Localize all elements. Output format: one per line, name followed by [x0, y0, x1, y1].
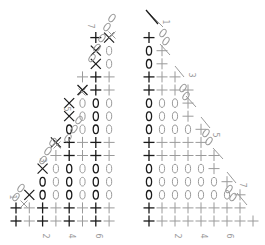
single-crochet-icon: [157, 150, 168, 161]
single-crochet-icon: [90, 202, 101, 213]
chain-stitch-icon: [93, 112, 98, 121]
single-crochet-icon: [90, 137, 101, 148]
single-crochet-icon: [77, 71, 88, 82]
turning-chain-icon: [159, 28, 168, 38]
row-or-column-label: 3: [38, 157, 47, 162]
turning-chain-icon: [44, 146, 53, 156]
row-or-column-label: 5: [62, 106, 71, 111]
single-crochet-icon: [104, 85, 115, 96]
single-crochet-icon: [209, 150, 220, 161]
single-crochet-icon: [170, 137, 181, 148]
chain-stitch-icon: [146, 164, 151, 173]
single-crochet-icon: [77, 202, 88, 213]
chain-stitch-icon: [93, 99, 98, 108]
chain-stitch-icon: [224, 191, 229, 200]
single-crochet-icon: [77, 150, 88, 161]
turning-chain-icon: [17, 183, 26, 193]
left-triangle-chart: 2461357: [8, 13, 116, 238]
row-or-column-label: 3: [187, 72, 196, 77]
single-crochet-icon: [196, 150, 207, 161]
single-crochet-icon: [77, 137, 88, 148]
chain-stitch-icon: [159, 112, 164, 121]
chain-stitch-icon: [53, 191, 58, 200]
chain-stitch-icon: [185, 177, 190, 186]
single-crochet-icon: [209, 202, 220, 213]
chain-stitch-icon: [107, 99, 112, 108]
chain-stitch-icon: [172, 125, 177, 134]
chain-stitch-icon: [146, 125, 151, 134]
turning-chain-icon: [108, 13, 117, 23]
single-crochet-icon: [104, 71, 115, 82]
single-crochet-icon: [157, 71, 168, 82]
chain-stitch-icon: [198, 164, 203, 173]
decrease-stitch-icon: [91, 59, 101, 69]
chain-stitch-icon: [53, 177, 58, 186]
single-crochet-icon: [37, 216, 48, 227]
chain-stitch-icon: [107, 125, 112, 134]
chain-stitch-icon: [159, 164, 164, 173]
single-crochet-icon: [104, 216, 115, 227]
decrease-stitch-icon: [38, 164, 48, 174]
chain-stitch-icon: [159, 191, 164, 200]
single-crochet-icon: [222, 202, 233, 213]
chain-stitch-icon: [80, 191, 85, 200]
chain-stitch-icon: [185, 191, 190, 200]
single-crochet-icon: [144, 71, 155, 82]
chain-stitch-icon: [80, 125, 85, 134]
single-crochet-icon: [24, 202, 35, 213]
single-crochet-icon: [157, 202, 168, 213]
single-crochet-icon: [196, 216, 207, 227]
chain-stitch-icon: [107, 46, 112, 55]
chain-stitch-icon: [93, 164, 98, 173]
turning-chain-icon: [75, 115, 84, 125]
chain-stitch-icon: [80, 164, 85, 173]
single-crochet-icon: [50, 202, 61, 213]
single-crochet-icon: [222, 216, 233, 227]
single-crochet-icon: [144, 216, 155, 227]
single-crochet-icon: [144, 32, 155, 43]
single-crochet-icon: [196, 202, 207, 213]
single-crochet-icon: [157, 137, 168, 148]
single-crochet-icon: [77, 216, 88, 227]
chain-stitch-icon: [40, 191, 45, 200]
chain-stitch-icon: [146, 177, 151, 186]
turning-chain-icon: [64, 133, 73, 143]
single-crochet-icon: [170, 216, 181, 227]
single-crochet-icon: [104, 202, 115, 213]
single-crochet-icon: [183, 202, 194, 213]
chain-stitch-icon: [146, 46, 151, 55]
row-or-column-label: 7: [238, 182, 247, 187]
single-crochet-icon: [209, 163, 220, 174]
single-crochet-icon: [183, 137, 194, 148]
single-crochet-icon: [170, 150, 181, 161]
single-crochet-icon: [157, 58, 168, 69]
single-crochet-icon: [144, 85, 155, 96]
chain-stitch-icon: [67, 164, 72, 173]
chain-stitch-icon: [67, 177, 72, 186]
turning-chain-icon: [88, 53, 97, 63]
single-crochet-icon: [64, 202, 75, 213]
chain-stitch-icon: [185, 125, 190, 134]
decrease-stitch-icon: [78, 85, 88, 95]
row-or-column-label: 7: [86, 23, 95, 28]
single-crochet-icon: [90, 85, 101, 96]
row-or-column-label: 6: [94, 233, 103, 238]
turning-chain-icon: [179, 83, 188, 93]
single-crochet-icon: [157, 85, 168, 96]
chain-stitch-icon: [107, 177, 112, 186]
chain-stitch-icon: [107, 164, 112, 173]
turning-chain-icon: [225, 184, 234, 194]
chain-stitch-icon: [53, 164, 58, 173]
row-or-column-label: 6: [225, 233, 234, 238]
single-crochet-icon: [37, 202, 48, 213]
chain-stitch-icon: [198, 191, 203, 200]
chain-stitch-icon: [198, 177, 203, 186]
row-or-column-label: 4: [199, 233, 208, 238]
chain-stitch-icon: [107, 112, 112, 121]
chain-stitch-icon: [172, 191, 177, 200]
single-crochet-icon: [183, 216, 194, 227]
chain-stitch-icon: [185, 164, 190, 173]
slip-stitch-line: [146, 10, 158, 24]
chain-stitch-icon: [67, 191, 72, 200]
single-crochet-icon: [144, 150, 155, 161]
